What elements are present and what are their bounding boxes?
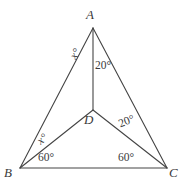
segment-AC xyxy=(93,28,167,168)
vertex-label-c: C xyxy=(169,166,178,179)
angle-label-a-20: 20° xyxy=(95,60,111,72)
segment-BD xyxy=(20,110,93,168)
vertex-label-b: B xyxy=(4,166,12,179)
vertex-label-a: A xyxy=(86,8,94,21)
geometry-figure: A B C D x° 20° 20° x° 60° 60° xyxy=(0,0,185,186)
angle-label-c-60: 60° xyxy=(118,152,134,164)
angle-label-b-60: 60° xyxy=(38,152,54,164)
vertex-label-d: D xyxy=(84,113,94,126)
triangle-diagram-svg xyxy=(0,0,185,186)
segment-AB xyxy=(20,28,93,168)
